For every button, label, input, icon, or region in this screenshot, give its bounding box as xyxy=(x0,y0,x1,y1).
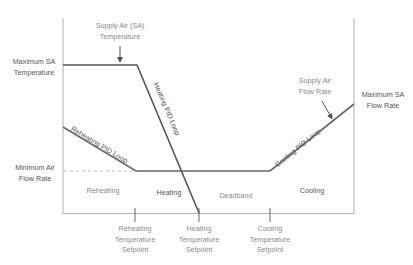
zone-deadband: Deadband xyxy=(211,191,261,202)
heating-setpoint-label: Heating Temperature Setpoint xyxy=(174,224,224,256)
max-sa-flow-rate-label: Maximum SA Flow Rate xyxy=(356,90,410,111)
zone-heating: Heating xyxy=(144,188,194,199)
min-air-flow-rate-label: Minimum Air Flow Rate xyxy=(9,163,61,184)
sa-temperature-annotation: Supply Air (SA) Temperature xyxy=(90,21,150,42)
cooling-setpoint-label: Cooling Temperature Setpoint xyxy=(245,224,295,256)
zone-reheating: Reheating xyxy=(78,186,128,197)
max-sa-temperature-label: Maximum SA Temperature xyxy=(8,57,60,78)
sa-flow-rate-arrow xyxy=(322,101,331,117)
sa-flow-rate-annotation: Supply Air Flow Rate xyxy=(290,76,340,97)
zone-cooling: Cooling xyxy=(287,186,337,197)
reheating-setpoint-label: Reheating Temperature Setpoint xyxy=(110,224,160,256)
